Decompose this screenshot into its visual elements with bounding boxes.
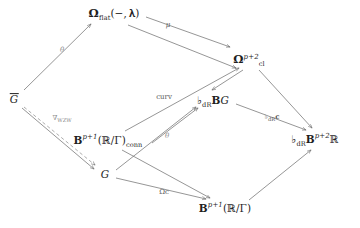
omega-symbol: Ω [233, 52, 243, 66]
edge-theta-top [24, 24, 91, 90]
omega-symbol: Ω [89, 6, 99, 20]
bold-b: B [199, 202, 208, 214]
conn-subscript: conn [126, 141, 143, 149]
edge-mu [146, 17, 230, 47]
edge-label-theta-top: θ [60, 47, 64, 54]
b-p1-exponent: p+1 [208, 201, 223, 209]
commutative-diagram: Ωflat(−, 𝛌) Ωp+2cl G ♭dRBG Bp+1(ℝ/Γ)conn… [0, 0, 360, 228]
node-b-p1[interactable]: Bp+1(ℝ/Γ) [199, 203, 251, 214]
edge-label-theta-mid: θ [165, 133, 169, 140]
node-g-bar[interactable]: G [10, 93, 19, 105]
edge-label-flat-dr-c: ♭dRc [265, 113, 280, 121]
node-g-plain[interactable]: G [101, 169, 110, 180]
b-conn-exponent: p+1 [83, 133, 98, 141]
b-p2-exponent: p+2 [315, 132, 330, 140]
letter-g: G [220, 94, 229, 106]
omega-flat-args: (−, 𝛌) [110, 7, 139, 19]
edge-bp1-to-bp2r [249, 150, 311, 200]
node-flat-dr-b-p2-r[interactable]: ♭dRBp+2ℝ [291, 134, 338, 145]
omega-cl-exponent: p+2 [244, 53, 259, 61]
node-omega-flat[interactable]: Ωflat(−, 𝛌) [89, 8, 140, 20]
edge-label-curv: curv [156, 94, 172, 101]
node-omega-cl[interactable]: Ωp+2cl [233, 54, 264, 66]
b-conn-args: (ℝ/Γ) [98, 134, 126, 146]
edge-theta-mid [152, 108, 198, 143]
edge-omegaflat-to-cl [128, 25, 236, 68]
flat-subscript: flat [99, 14, 111, 22]
node-flat-dr-bg[interactable]: ♭dRBG [197, 95, 229, 106]
letter-g: G [101, 168, 110, 180]
edge-label-omega-c: Ωc [159, 189, 169, 196]
node-b-conn[interactable]: Bp+1(ℝ/Γ)conn [74, 135, 143, 146]
edge-label-nabla-wzw: ∇WZW [52, 115, 71, 122]
reals-symbol: ℝ [330, 133, 339, 145]
cl-subscript: cl [259, 60, 265, 68]
bold-b: B [74, 134, 83, 146]
g-bar-letter: G [10, 93, 19, 105]
b-p1-args: (ℝ/Γ) [223, 202, 251, 214]
edge-label-mu: μ [166, 22, 171, 29]
